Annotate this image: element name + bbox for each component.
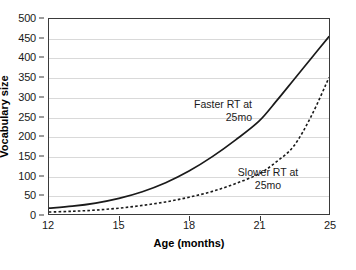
y-tick-label: 150 [18, 150, 36, 162]
y-tick-mark [39, 77, 44, 78]
x-tick-mark [260, 216, 261, 221]
y-tick-mark [39, 195, 44, 196]
y-tick-label: 200 [18, 130, 36, 142]
y-tick-label: 400 [18, 51, 36, 63]
y-tick-mark [39, 96, 44, 97]
y-tick-mark [39, 175, 44, 176]
y-tick-label: 250 [18, 111, 36, 123]
x-axis-tick-labels: 1215182125 [48, 216, 330, 234]
x-tick-mark [119, 216, 120, 221]
y-tick-mark [39, 18, 44, 19]
y-axis-tick-labels: 050100150200250300350400450500 [0, 18, 44, 215]
x-axis-title: Age (months) [48, 237, 330, 249]
y-tick-mark [39, 116, 44, 117]
y-tick-label: 0 [30, 209, 36, 221]
x-tick-label: 12 [42, 219, 54, 231]
series-annotation-faster: Faster RT at 25mo [176, 98, 252, 124]
y-tick-label: 50 [24, 189, 36, 201]
y-tick-label: 450 [18, 32, 36, 44]
x-tick-mark [189, 216, 190, 221]
y-tick-mark [39, 136, 44, 137]
series-annotation-slower: Slower RT at 25mo [225, 166, 311, 192]
y-tick-mark [39, 37, 44, 38]
vocabulary-growth-chart: Vocabulary size 050100150200250300350400… [0, 0, 356, 270]
y-tick-label: 100 [18, 170, 36, 182]
y-tick-label: 500 [18, 12, 36, 24]
y-tick-mark [39, 155, 44, 156]
x-tick-label: 25 [324, 219, 336, 231]
y-tick-label: 300 [18, 91, 36, 103]
y-tick-label: 350 [18, 71, 36, 83]
y-tick-mark [39, 57, 44, 58]
y-tick-mark [39, 215, 44, 216]
